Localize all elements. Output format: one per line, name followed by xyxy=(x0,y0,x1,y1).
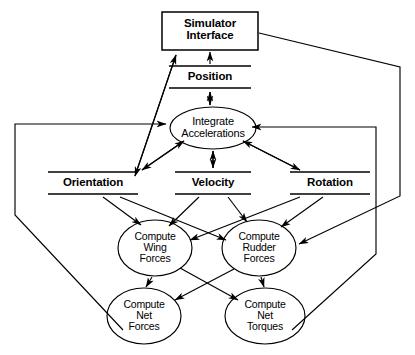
node-integrate-accelerations-shape xyxy=(170,107,256,149)
node-orientation-shape xyxy=(48,172,138,194)
node-compute-net-torques-shape xyxy=(225,288,305,344)
node-compute-rudder-forces-shape xyxy=(222,220,296,276)
node-compute-net-forces-shape xyxy=(107,288,181,344)
dataflow-diagram: Simulator Interface Position Integrate A… xyxy=(0,0,415,355)
edge-orientation-to-compute-wing-forces xyxy=(103,197,141,225)
node-simulator-interface-shape xyxy=(162,12,258,50)
edge-velocity-to-compute-wing-forces xyxy=(169,197,199,226)
edge-compute-net-forces-to-integrate-feedback xyxy=(15,124,166,330)
diagram-canvas xyxy=(0,0,415,355)
edge-simulator-interface-to-compute-rudder-forces-control xyxy=(259,33,400,244)
node-velocity-shape xyxy=(175,172,251,194)
edge-compute-rudder-forces-to-compute-net-forces xyxy=(175,269,234,300)
edge-compute-wing-forces-to-compute-net-forces xyxy=(146,277,152,287)
node-position-shape xyxy=(169,66,251,88)
node-compute-wing-forces-shape xyxy=(118,220,192,276)
edge-orientation-to-integrate xyxy=(142,141,184,170)
edge-compute-wing-forces-to-compute-net-torques xyxy=(180,268,238,300)
edge-orientation-to-compute-rudder-forces xyxy=(120,197,226,240)
edge-compute-net-torques-to-integrate-feedback xyxy=(252,127,376,330)
edge-rotation-to-integrate xyxy=(243,141,300,170)
edge-compute-rudder-forces-to-compute-net-torques xyxy=(261,277,264,287)
edge-simulator-interface-to-orientation xyxy=(135,55,176,176)
node-rotation-shape xyxy=(290,172,370,194)
edge-rotation-to-compute-wing-forces xyxy=(190,197,300,240)
